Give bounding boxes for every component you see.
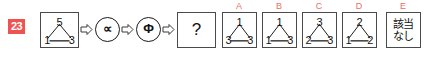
operator-2-symbol: Φ [137,18,160,40]
option-d-node-top: 2 [356,16,362,27]
option-b-cell[interactable]: 1 1 3 [262,12,297,48]
option-a-label: A [222,1,256,11]
option-c-node-right: 3 [327,34,333,45]
option-b-node-right: 3 [287,34,293,45]
option-b-graph: 1 1 3 [263,13,296,47]
option-e-text-line-1: 該当 [393,18,414,30]
answer-placeholder-cell: ? [177,12,216,48]
source-node-right: 3 [69,34,75,45]
source-graph: 5 1 3 [41,13,78,47]
option-c-node-top: 3 [316,16,322,27]
option-a-node-left: 3 [226,34,232,45]
question-mark: ? [178,13,215,47]
option-c-cell[interactable]: 3 2 3 [302,12,337,48]
option-b-label: B [262,1,296,11]
option-e-label: E [386,1,420,11]
problem-number-badge: 23 [8,19,25,34]
option-c-graph: 3 2 3 [303,13,336,47]
puzzle-question-row: 23 5 1 3 ∝ Φ [0,0,429,60]
option-e-cell[interactable]: 該当 なし [386,12,421,48]
option-c-label: C [302,1,336,11]
source-node-left: 1 [44,34,50,45]
option-d-node-right: 2 [367,34,373,45]
option-a-graph: 1 3 3 [223,13,256,47]
option-a-node-right: 3 [247,34,253,45]
source-graph-cell: 5 1 3 [40,12,79,48]
operator-1-symbol: ∝ [96,18,119,40]
arrow-2-icon [121,23,134,36]
arrow-1-icon [80,23,93,36]
option-e-text: 該当 なし [387,13,420,47]
option-a-node-top: 1 [236,16,242,27]
arrow-3-icon [162,23,175,36]
option-d-node-left: 1 [346,34,352,45]
option-e-text-line-2: なし [393,30,414,42]
operator-proportional-to: ∝ [95,17,120,42]
option-b-node-top: 1 [276,16,282,27]
option-d-cell[interactable]: 2 1 2 [342,12,377,48]
operator-phi: Φ [136,17,161,42]
option-c-node-left: 2 [306,34,312,45]
option-d-label: D [342,1,376,11]
option-a-cell[interactable]: 1 3 3 [222,12,257,48]
option-b-node-left: 1 [266,34,272,45]
option-d-graph: 2 1 2 [343,13,376,47]
source-node-top: 5 [56,16,62,27]
